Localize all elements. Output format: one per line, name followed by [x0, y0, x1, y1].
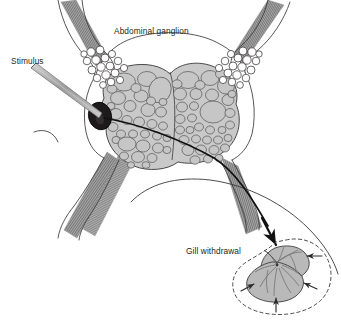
label-abdominal-ganglion: Abdominal ganglion: [114, 26, 189, 36]
label-gill-withdrawal: Gill withdrawal: [186, 246, 241, 256]
diagram-canvas: Abdominal ganglion Stimulus Gill withdra…: [0, 0, 341, 326]
abdominal-ganglion-diagram: Abdominal ganglion Stimulus Gill withdra…: [0, 0, 341, 326]
label-stimulus: Stimulus: [11, 56, 44, 66]
